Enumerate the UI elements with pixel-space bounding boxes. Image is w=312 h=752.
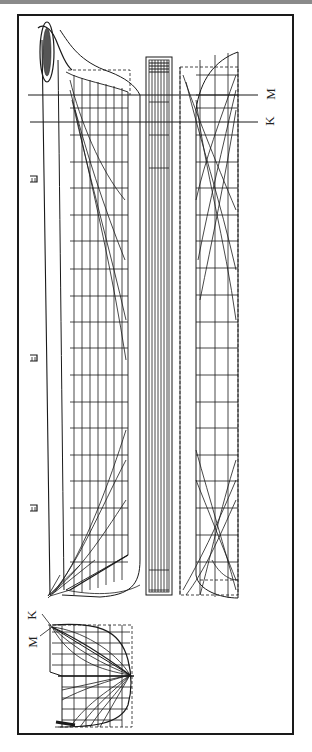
profile-view xyxy=(30,22,140,598)
label-k: K xyxy=(262,116,278,125)
body-plan xyxy=(40,614,134,727)
label-m: M xyxy=(263,88,279,100)
body-plan-label-m: M xyxy=(25,636,41,648)
waterlines-plan xyxy=(180,52,238,598)
half-breadth-plan xyxy=(146,57,172,595)
body-plan-label-k: K xyxy=(24,610,40,619)
lines-plan-drawing xyxy=(0,0,312,752)
